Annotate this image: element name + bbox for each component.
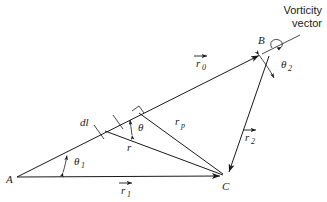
diagram-canvas: Vorticity vector A B C r 0 r 1 r 2 r p r: [0, 0, 327, 202]
label-segment-rp: r p: [175, 115, 185, 130]
angle-theta-marker: [130, 120, 132, 135]
angle-theta2-arc: [259, 55, 274, 78]
label-theta2-subscript: 2: [288, 64, 292, 73]
label-theta1-subscript: 1: [81, 161, 85, 170]
angle-theta1-marker: [63, 156, 67, 173]
vorticity-axis-line: [262, 35, 300, 54]
vector-r1: [17, 176, 220, 177]
label-r1-subscript: 1: [127, 190, 131, 199]
vector-overbars: [119, 56, 256, 183]
label-vector-r1: r 1: [121, 184, 131, 199]
label-r2-base: r: [245, 131, 250, 143]
segment-r-line: [105, 131, 223, 175]
label-angle-theta: θ: [138, 121, 144, 133]
vector-r2-line: [229, 56, 269, 172]
vertex-label-B: B: [258, 34, 265, 46]
vector-r1-line: [17, 176, 220, 177]
label-segment-dl: dl: [80, 116, 89, 128]
angle-theta2-marker: [259, 55, 274, 78]
label-r1-base: r: [121, 184, 126, 196]
circulation-loop-arrowhead: [277, 47, 282, 51]
dl-tick-right: [113, 115, 123, 129]
label-angle-theta2: θ 2: [281, 58, 292, 73]
angle-theta-arrow: [130, 120, 132, 135]
dl-segment-ticks: [94, 115, 123, 139]
vorticity-vector-label-line1: Vorticity: [283, 4, 322, 16]
label-theta1-base: θ: [74, 155, 80, 167]
vector-r0-line: [17, 56, 259, 178]
label-r0-subscript: 0: [202, 63, 206, 72]
vertex-label-C: C: [222, 180, 230, 192]
label-theta2-base: θ: [281, 58, 287, 70]
label-vector-r2: r 2: [245, 131, 255, 146]
angle-theta1-arc: [63, 156, 67, 173]
vector-r2: [229, 56, 269, 172]
vorticity-axis: [262, 35, 300, 54]
segment-r: [105, 131, 223, 175]
label-r0-base: r: [196, 57, 201, 69]
right-angle-mark-rp: [132, 106, 144, 113]
vertex-label-A: A: [5, 173, 13, 185]
label-r2-subscript: 2: [251, 137, 255, 146]
vorticity-vector-label-line2: vector: [292, 17, 322, 29]
label-segment-r: r: [127, 141, 132, 153]
label-rp-base: r: [175, 115, 180, 127]
label-rp-subscript: p: [180, 121, 185, 130]
label-angle-theta1: θ 1: [74, 155, 85, 170]
vorticity-triangle-diagram: Vorticity vector A B C r 0 r 1 r 2 r p r: [0, 0, 327, 202]
dl-tick-left: [94, 125, 104, 139]
right-angle-mark-path: [132, 106, 144, 113]
vector-r0: [17, 56, 259, 178]
label-vector-r0: r 0: [196, 57, 206, 72]
